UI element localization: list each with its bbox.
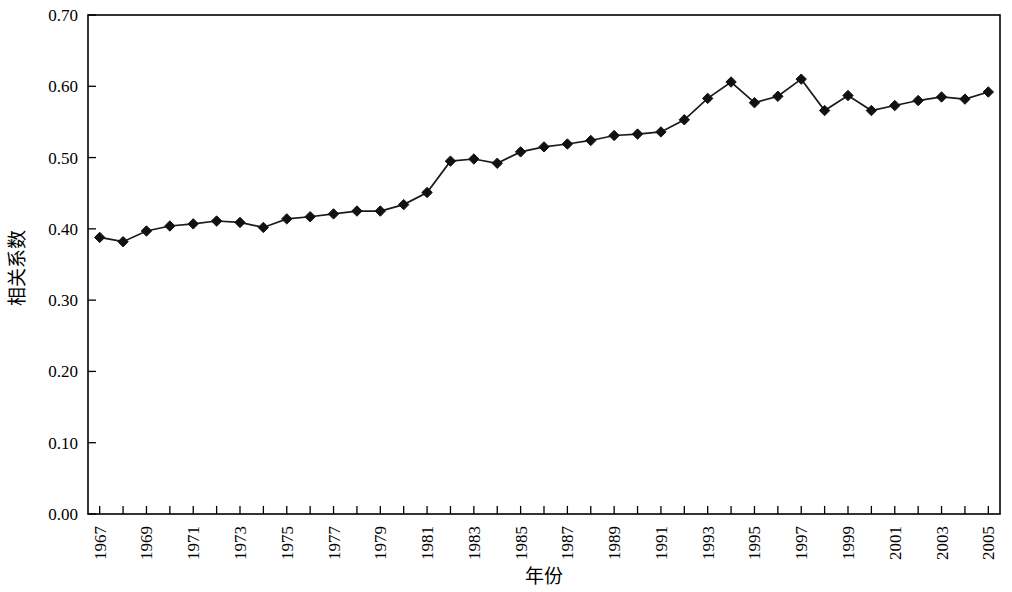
data-point-marker [843, 90, 853, 100]
plot-frame [88, 15, 1000, 514]
y-axis-title: 相关系数 [6, 230, 28, 306]
y-tick-label: 0.60 [48, 77, 78, 96]
data-point-marker [165, 221, 175, 231]
y-tick-label: 0.70 [48, 6, 78, 25]
data-point-marker [632, 129, 642, 139]
x-tick-label: 2005 [979, 526, 998, 560]
x-tick-label: 1995 [745, 526, 764, 560]
y-tick-label: 0.10 [48, 434, 78, 453]
data-point-marker [94, 232, 104, 242]
y-tick-label: 0.20 [48, 362, 78, 381]
correlation-coefficient-line-chart: 0.700.600.500.400.300.200.100.00 1967196… [0, 0, 1012, 592]
x-tick-label: 1997 [792, 526, 811, 561]
data-point-marker [258, 222, 268, 232]
y-tick-label: 0.30 [48, 291, 78, 310]
y-tick-label: 0.00 [48, 505, 78, 524]
data-point-marker [469, 154, 479, 164]
y-tick-label: 0.50 [48, 149, 78, 168]
x-tick-label: 1993 [699, 526, 718, 560]
x-tick-label: 1981 [418, 526, 437, 560]
x-tick-label: 1983 [465, 526, 484, 560]
x-axis-title: 年份 [525, 565, 563, 587]
data-point-marker [586, 135, 596, 145]
data-point-marker [890, 100, 900, 110]
data-point-marker [188, 219, 198, 229]
data-point-marker [539, 142, 549, 152]
x-tick-label: 1967 [91, 526, 110, 561]
data-point-marker [282, 214, 292, 224]
data-point-marker [913, 95, 923, 105]
data-point-marker [936, 92, 946, 102]
data-point-marker [118, 236, 128, 246]
data-point-marker [305, 212, 315, 222]
x-tick-label: 1977 [325, 526, 344, 561]
data-point-marker [983, 87, 993, 97]
data-point-marker [960, 94, 970, 104]
x-tick-label: 1979 [371, 526, 390, 560]
x-tick-label: 1973 [231, 526, 250, 560]
data-point-marker [141, 226, 151, 236]
data-point-marker [398, 199, 408, 209]
data-point-marker [375, 206, 385, 216]
data-point-marker [515, 147, 525, 157]
x-tick-label: 1999 [839, 526, 858, 560]
chart-canvas: 0.700.600.500.400.300.200.100.00 1967196… [0, 0, 1012, 592]
x-tick-label: 1969 [137, 526, 156, 560]
data-point-marker [656, 127, 666, 137]
data-point-marker [352, 206, 362, 216]
x-tick-label: 1989 [605, 526, 624, 560]
x-axis-tick-marks [100, 506, 989, 514]
data-point-marker [492, 158, 502, 168]
x-tick-label: 1975 [278, 526, 297, 560]
data-point-marker [328, 209, 338, 219]
x-tick-label: 2003 [933, 526, 952, 560]
y-tick-label: 0.40 [48, 220, 78, 239]
data-point-marker [211, 216, 221, 226]
data-point-marker [866, 105, 876, 115]
data-point-marker [562, 139, 572, 149]
data-point-marker [235, 217, 245, 227]
x-tick-label: 2001 [886, 526, 905, 560]
x-tick-label: 1971 [184, 526, 203, 560]
data-point-marker [609, 130, 619, 140]
series-line [100, 79, 989, 242]
x-axis-tick-labels: 1967196919711973197519771979198119831985… [91, 526, 999, 561]
x-tick-label: 1987 [558, 526, 577, 561]
y-axis-tick-labels: 0.700.600.500.400.300.200.100.00 [48, 6, 78, 524]
data-series-correlation [94, 74, 993, 247]
x-tick-label: 1991 [652, 526, 671, 560]
x-tick-label: 1985 [512, 526, 531, 560]
y-axis-tick-marks [88, 15, 96, 514]
